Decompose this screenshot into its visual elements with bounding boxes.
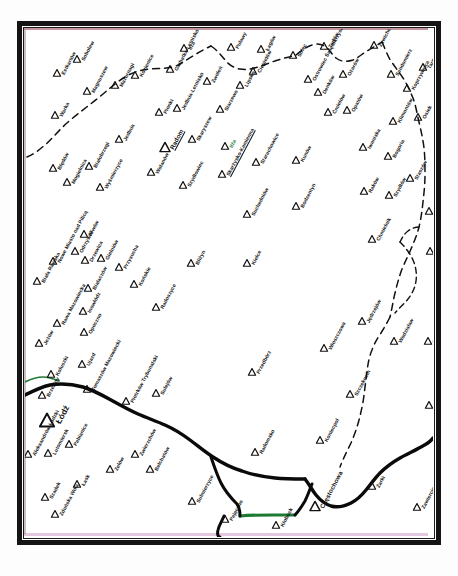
settlement-label: Inowłódz — [86, 291, 101, 313]
settlement-label: Sulejów — [159, 376, 173, 396]
settlement-label: Jędrzejów — [365, 299, 382, 324]
settlement-label: Białaczów — [91, 266, 108, 291]
settlement-label: Stopnica — [432, 192, 433, 214]
settlement-label: Zawichost — [377, 29, 394, 48]
settlement-label: Mogielnica — [70, 158, 88, 185]
settlement-label: Jedlnia-Letnisko — [180, 72, 204, 111]
settlement-label: Ciepielów — [256, 50, 272, 74]
settlement-label: Suchedniów — [250, 187, 269, 217]
settlement-label: Pajęczno — [228, 499, 243, 522]
boundary-dashed-central-spur — [400, 227, 419, 242]
settlement-label: Garbatka-Letnisko — [173, 29, 200, 72]
settlement-label: Lipsko — [243, 70, 256, 88]
settlement-label: Koluszki — [54, 355, 69, 377]
settlement-label: Solec — [296, 43, 307, 58]
settlement-label: Bogoria — [391, 139, 405, 159]
settlement-label: Kozienice — [138, 54, 154, 78]
settlement-label: Zwierzchów — [138, 428, 157, 457]
settlement-label: Tarnobrzeg — [426, 42, 433, 70]
settlement-label: Raków — [367, 176, 380, 193]
settlement-label: Kunów — [299, 145, 312, 163]
settlement-label: Szydłów — [392, 177, 407, 198]
settlement-label: Osiek — [421, 105, 432, 120]
settlement-label: Radoszyce — [159, 283, 177, 310]
settlement-label: Kazimierza Wielka — [431, 301, 433, 344]
settlement-label: Sobolew — [80, 40, 95, 62]
settlement-label: Wodzisław — [397, 318, 414, 344]
settlement-label: Sulmierzyce — [195, 474, 214, 504]
settlement-label: Brzeziny — [45, 376, 60, 398]
settlement-label: Ożarów — [346, 58, 360, 77]
settlement-label: Pabianice — [72, 423, 88, 447]
settlement-label: Tomaszów Mazowiecki — [90, 339, 121, 392]
settlement-label: Przedbórz — [255, 350, 272, 375]
settlement-label: Koniecpol — [323, 418, 340, 443]
settlement-label: Opoczno — [87, 313, 102, 335]
settlement-label: Włoszczowa — [327, 321, 346, 351]
settlement-label: Szydłowiec — [186, 160, 204, 188]
settlement-label: Iłża — [228, 139, 237, 149]
settlement-label: Białobrzegi — [92, 141, 110, 169]
settlement-label: Końskie — [137, 266, 151, 287]
settlement-label: Radom — [170, 128, 186, 150]
settlement-label: Kłobuck — [279, 507, 293, 528]
settlement-label: Rawa Mazowiecka — [60, 283, 86, 326]
settlement-label: Magnuszew — [90, 65, 109, 94]
map-root: IłżaSobolewEstkartówKozienicePuławyGarba… — [0, 0, 458, 576]
settlement-label: Skaryszew — [195, 116, 212, 142]
settlement-label: Jedlnia — [122, 123, 135, 142]
settlement-label: Opatów — [350, 93, 364, 113]
settlement-label: Błędów — [56, 152, 70, 171]
settlement-label: Puławy — [234, 31, 247, 50]
settlement-label: Starachowice — [259, 132, 280, 165]
settlement-label: Zawiercie — [420, 486, 433, 510]
settlement-label: Łask — [80, 474, 90, 487]
settlement-label: Ujazd — [85, 352, 96, 367]
settlement-label: Denków — [321, 75, 335, 95]
settlement-label: Wolbrom — [432, 385, 433, 408]
map-plate: IłżaSobolewEstkartówKozienicePuławyGarba… — [25, 29, 433, 537]
settlement-label: Sandomierz — [394, 48, 413, 77]
settlement-label: Jeżów — [42, 329, 54, 345]
settlement-label: Gielniów — [104, 239, 119, 261]
settlement-label: Iwaniska — [366, 128, 381, 150]
settlement-label: Siarzewo — [223, 89, 238, 112]
boundary-dashed-busko-loop — [395, 242, 416, 313]
settlement-label: Żarki — [375, 475, 386, 489]
settlement-label: Chmielnik — [375, 217, 392, 242]
settlement-label: Klimontów — [396, 98, 413, 124]
settlement-label: Częstochowa — [320, 470, 345, 510]
settlement-label: Bełchatów — [153, 446, 170, 472]
settlement-label: Bodzentyn — [299, 183, 316, 209]
settlement-label: Zelów — [113, 456, 125, 472]
settlement-label: Zwoleń — [210, 65, 223, 84]
settlement-label: Szadek — [48, 481, 61, 500]
settlement-label: Wyśmierzyce — [103, 158, 123, 190]
settlement-label: Wolanów — [154, 152, 170, 175]
settlement-label: Szczekocin — [353, 369, 371, 397]
settlement-label: Przysucha — [122, 244, 139, 270]
settlement-label: Skarżysko-Kamienna — [225, 128, 255, 177]
settlement-label: Estkartów — [60, 51, 77, 76]
settlement-label: Staszów — [413, 160, 428, 181]
settlement-label: Bliżyn — [194, 250, 206, 266]
settlement-label: Warka — [58, 102, 70, 118]
settlement-label: Radomsko — [258, 429, 275, 455]
settlement-label: Kielce — [250, 250, 262, 266]
